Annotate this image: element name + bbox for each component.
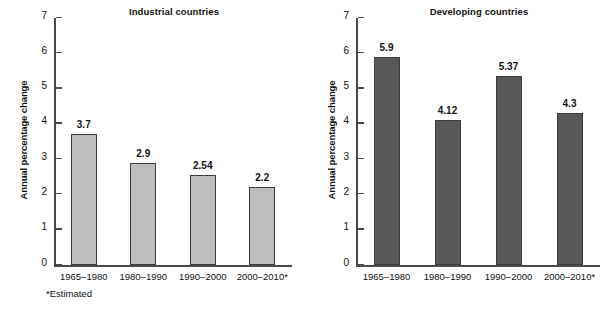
bar[interactable] bbox=[374, 57, 400, 265]
bar-slot: 5.91965–1980 bbox=[356, 18, 417, 265]
bar-value-label: 5.37 bbox=[499, 61, 518, 72]
y-tick-label: 2 bbox=[343, 186, 349, 197]
chart-panel-developing: Developing countries Annual percentage c… bbox=[308, 0, 616, 317]
bar-value-label: 4.3 bbox=[563, 98, 577, 109]
bar-slot: 4.121980–1990 bbox=[417, 18, 478, 265]
x-axis-line bbox=[54, 265, 292, 267]
y-tick-label: 5 bbox=[343, 80, 349, 91]
y-tick-label: 5 bbox=[41, 80, 47, 91]
bar-slot: 2.91980–1990 bbox=[114, 18, 174, 265]
figure-container: Industrial countries Annual percentage c… bbox=[0, 0, 616, 317]
chart-title-developing: Developing countries bbox=[308, 6, 616, 17]
y-tick-label: 0 bbox=[343, 257, 349, 268]
y-axis-label-developing: Annual percentage change bbox=[326, 60, 340, 220]
x-tick-label: 1980–1990 bbox=[119, 271, 167, 282]
bar[interactable] bbox=[557, 113, 583, 265]
bar[interactable] bbox=[496, 76, 522, 265]
bar[interactable] bbox=[249, 187, 275, 265]
y-axis-label-industrial: Annual percentage change bbox=[18, 60, 32, 220]
bar-slot: 2.541990–2000 bbox=[173, 18, 233, 265]
bar-slot: 4.32000–2010* bbox=[539, 18, 600, 265]
bar-value-label: 2.9 bbox=[136, 148, 150, 159]
bar-value-label: 2.54 bbox=[193, 160, 212, 171]
bar-value-label: 5.9 bbox=[380, 42, 394, 53]
bar[interactable] bbox=[71, 134, 97, 265]
y-tick-label: 3 bbox=[343, 151, 349, 162]
y-tick-label: 1 bbox=[343, 221, 349, 232]
bar-slot: 5.371990–2000 bbox=[478, 18, 539, 265]
x-tick-label: 2000–2010* bbox=[544, 271, 595, 282]
y-tick-label: 6 bbox=[41, 45, 47, 56]
plot-area-industrial: 01234567 3.71965–19802.91980–19902.54199… bbox=[54, 18, 292, 265]
x-tick-label: 1965–1980 bbox=[60, 271, 108, 282]
bar-value-label: 3.7 bbox=[77, 119, 91, 130]
chart-panel-industrial: Industrial countries Annual percentage c… bbox=[0, 0, 308, 317]
y-tick-label: 0 bbox=[41, 257, 47, 268]
x-tick-label: 1980–1990 bbox=[424, 271, 472, 282]
bar-group-developing: 5.91965–19804.121980–19905.371990–20004.… bbox=[356, 18, 600, 265]
bar-group-industrial: 3.71965–19802.91980–19902.541990–20002.2… bbox=[54, 18, 292, 265]
footnote-estimated: *Estimated bbox=[46, 288, 92, 299]
y-tick-label: 7 bbox=[343, 10, 349, 21]
y-tick-label: 1 bbox=[41, 221, 47, 232]
x-tick-label: 1965–1980 bbox=[363, 271, 411, 282]
bar-value-label: 4.12 bbox=[438, 105, 457, 116]
x-tick-label: 2000–2010* bbox=[237, 271, 288, 282]
bar[interactable] bbox=[190, 175, 216, 265]
y-tick-label: 4 bbox=[343, 115, 349, 126]
bar-value-label: 2.2 bbox=[255, 172, 269, 183]
plot-area-developing: 01234567 5.91965–19804.121980–19905.3719… bbox=[356, 18, 600, 265]
x-axis-line bbox=[356, 265, 600, 267]
bar[interactable] bbox=[130, 163, 156, 265]
y-tick-label: 6 bbox=[343, 45, 349, 56]
x-tick-label: 1990–2000 bbox=[485, 271, 533, 282]
y-tick-label: 3 bbox=[41, 151, 47, 162]
y-tick-label: 4 bbox=[41, 115, 47, 126]
y-tick-label: 7 bbox=[41, 10, 47, 21]
bar[interactable] bbox=[435, 120, 461, 265]
bar-slot: 3.71965–1980 bbox=[54, 18, 114, 265]
x-tick-label: 1990–2000 bbox=[179, 271, 227, 282]
bar-slot: 2.22000–2010* bbox=[233, 18, 293, 265]
y-tick-label: 2 bbox=[41, 186, 47, 197]
